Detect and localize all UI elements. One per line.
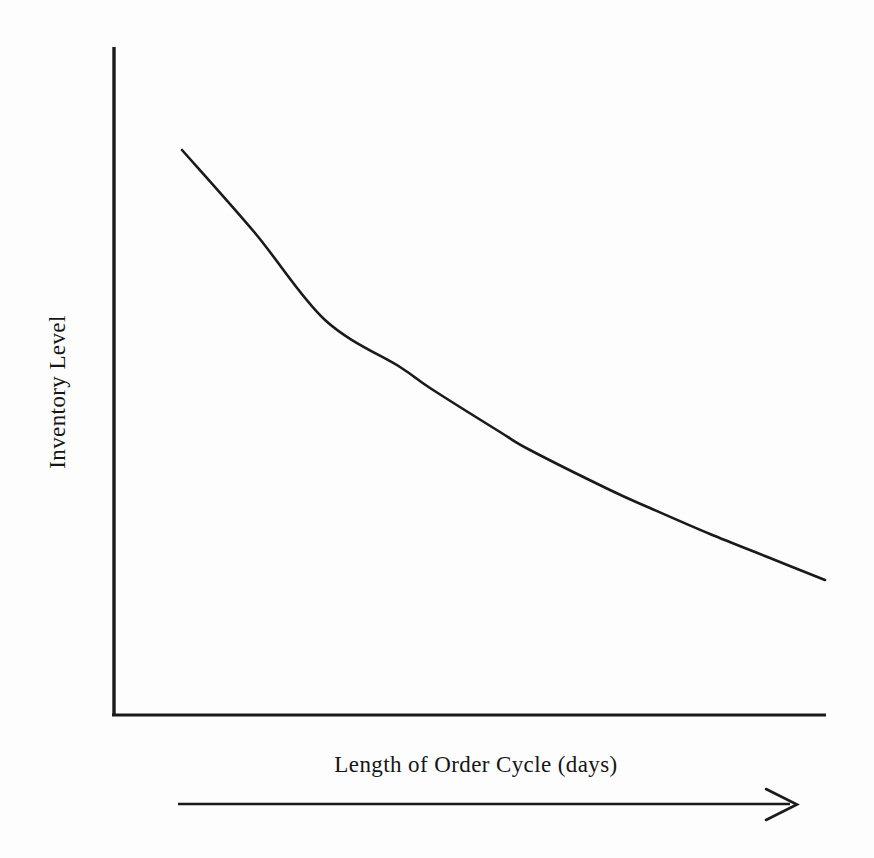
chart-canvas (0, 0, 874, 858)
x-axis-label: Length of Order Cycle (days) (334, 753, 617, 776)
inventory-level-curve (182, 150, 825, 580)
axes-group (112, 47, 826, 716)
direction-arrow (178, 789, 797, 820)
y-axis-label: Inventory Level (46, 315, 69, 469)
inventory-vs-order-cycle-chart: Inventory Level Length of Order Cycle (d… (0, 0, 874, 858)
data-series-group (182, 150, 825, 580)
